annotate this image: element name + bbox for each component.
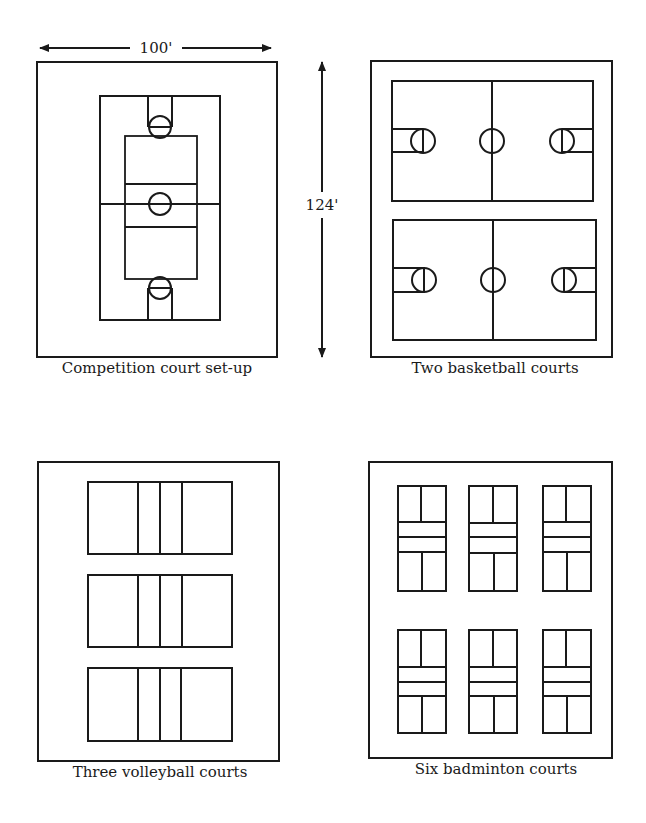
panel-competition: Competition court set-up	[37, 62, 277, 377]
badminton-court-6	[543, 630, 591, 733]
badminton-court-2	[469, 486, 517, 591]
basketball-court-1	[392, 81, 593, 201]
badminton-court-1	[398, 486, 446, 591]
basketball-court-2	[393, 220, 596, 340]
caption-badminton: Six badminton courts	[415, 760, 578, 778]
caption-competition: Competition court set-up	[62, 359, 252, 377]
panel-volleyball: Three volleyball courts	[38, 462, 279, 781]
width-label: 100'	[140, 39, 173, 57]
caption-basketball: Two basketball courts	[411, 359, 578, 377]
badminton-court-3	[543, 486, 591, 591]
height-dimension: 124'	[306, 62, 339, 357]
badminton-court-4	[398, 630, 446, 733]
gym-floor-outline	[369, 462, 612, 758]
gym-floor-outline	[38, 462, 279, 761]
volleyball-court-1	[88, 482, 232, 554]
competition-volleyball-court	[125, 136, 197, 279]
badminton-court-5	[469, 630, 517, 733]
panel-badminton: Six badminton courts	[369, 462, 612, 778]
gym-court-layouts-diagram: 100' 124' Competition cou	[0, 0, 646, 823]
height-label: 124'	[306, 196, 339, 214]
width-dimension: 100'	[40, 39, 271, 57]
volleyball-court-3	[88, 668, 232, 741]
volleyball-court-2	[88, 575, 232, 647]
caption-volleyball: Three volleyball courts	[73, 763, 248, 781]
panel-basketball: Two basketball courts	[371, 61, 612, 377]
